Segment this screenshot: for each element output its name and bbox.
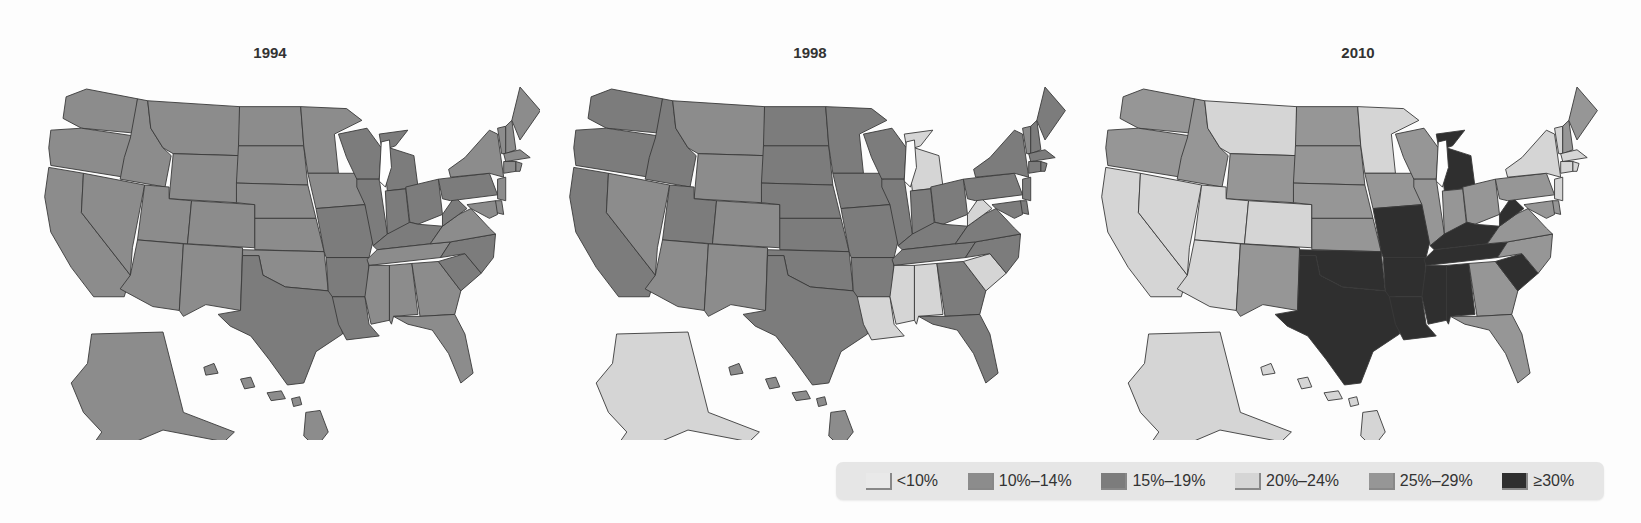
state-hi — [1361, 410, 1385, 440]
state-ar — [1383, 258, 1426, 297]
us-map — [0, 0, 540, 440]
legend-label: <10% — [897, 472, 938, 490]
state-hi-island — [792, 391, 810, 401]
state-ny — [1506, 130, 1561, 177]
state-hi-island — [267, 391, 285, 401]
state-oh — [931, 179, 968, 224]
state-pa — [963, 173, 1022, 200]
legend-item-ge30: ≥30% — [1502, 472, 1574, 490]
legend-swatch — [1369, 473, 1395, 490]
legend-swatch — [866, 473, 892, 490]
map-panel-1994: 1994 — [0, 0, 540, 440]
state-me — [512, 87, 540, 140]
state-wa — [1120, 89, 1194, 133]
legend-swatch — [1101, 473, 1127, 490]
state-fl — [394, 314, 474, 383]
state-hi-island — [1298, 377, 1312, 389]
state-hi-island — [729, 363, 743, 375]
legend-label: 10%–14% — [999, 472, 1072, 490]
state-sd — [761, 146, 832, 185]
state-nj — [498, 177, 506, 201]
legend-item-20-24: 20%–24% — [1235, 472, 1339, 490]
state-hi-island — [1261, 363, 1275, 375]
state-wa — [588, 89, 662, 133]
state-me — [1569, 87, 1598, 140]
state-hi-island — [204, 363, 218, 375]
state-nm — [179, 244, 242, 317]
legend-label: 15%–19% — [1132, 472, 1205, 490]
state-fl — [919, 314, 999, 383]
state-ri — [1041, 162, 1047, 172]
state-wa — [63, 89, 137, 133]
state-ak — [71, 332, 234, 440]
state-co — [187, 201, 254, 248]
state-nm — [1236, 244, 1299, 317]
state-ny — [974, 130, 1029, 177]
state-sd — [1293, 146, 1364, 185]
state-fl — [1451, 314, 1531, 383]
state-pa — [438, 173, 497, 200]
state-wy — [694, 154, 764, 203]
state-hi-island — [292, 397, 302, 407]
state-ri — [516, 162, 522, 172]
state-ct — [504, 162, 516, 174]
state-hi-island — [766, 377, 780, 389]
state-ak — [596, 332, 759, 440]
legend-label: 20%–24% — [1266, 472, 1339, 490]
us-map — [1075, 0, 1641, 440]
legend-swatch — [968, 473, 994, 490]
legend-label: 25%–29% — [1400, 472, 1473, 490]
state-ri — [1573, 162, 1579, 172]
state-wy — [169, 154, 239, 203]
map-panel-1998: 1998 — [540, 0, 1080, 440]
legend-swatch — [1235, 473, 1261, 490]
state-ak — [1128, 332, 1291, 440]
legend: <10% 10%–14% 15%–19% 20%–24% 25%–29% ≥30… — [836, 462, 1604, 500]
state-co — [1244, 201, 1311, 248]
state-oh — [406, 179, 443, 224]
state-ar — [851, 258, 894, 297]
state-ms — [890, 265, 914, 324]
state-hi-island — [1349, 397, 1359, 407]
state-ct — [1561, 162, 1573, 174]
state-ms — [365, 265, 389, 324]
legend-label: ≥30% — [1533, 472, 1574, 490]
legend-swatch — [1502, 473, 1528, 490]
us-map — [540, 0, 1080, 440]
state-wi — [1395, 128, 1438, 179]
state-ks — [1312, 218, 1381, 251]
state-nd — [763, 107, 828, 146]
state-sd — [236, 146, 307, 185]
state-ar — [326, 258, 369, 297]
state-hi-island — [1324, 391, 1342, 401]
state-nj — [1555, 177, 1563, 201]
state-nj — [1023, 177, 1031, 201]
state-ks — [255, 218, 324, 251]
legend-item-15-19: 15%–19% — [1101, 472, 1205, 490]
state-me — [1037, 87, 1066, 140]
legend-item-10-14: 10%–14% — [968, 472, 1072, 490]
state-ms — [1422, 265, 1446, 324]
state-wi — [863, 128, 906, 179]
legend-item-lt10: <10% — [866, 472, 938, 490]
state-nm — [704, 244, 767, 317]
state-pa — [1495, 173, 1554, 200]
state-nd — [1295, 107, 1360, 146]
state-co — [712, 201, 779, 248]
legend-item-25-29: 25%–29% — [1369, 472, 1473, 490]
state-hi-island — [817, 397, 827, 407]
state-wy — [1226, 154, 1296, 203]
state-oh — [1463, 179, 1500, 224]
state-hi — [304, 410, 328, 440]
state-ny — [449, 130, 504, 177]
state-ct — [1029, 162, 1041, 174]
state-nd — [238, 107, 303, 146]
state-ks — [780, 218, 849, 251]
state-hi-island — [241, 377, 255, 389]
state-wi — [338, 128, 381, 179]
map-panel-2010: 2010 — [1075, 0, 1641, 440]
state-hi — [829, 410, 853, 440]
